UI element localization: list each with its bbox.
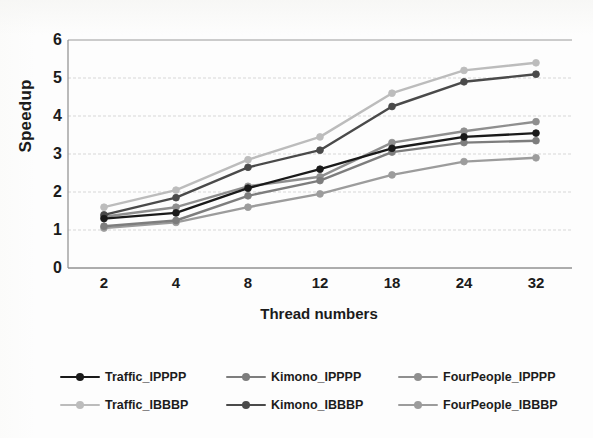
legend-swatch-icon: [398, 371, 438, 383]
series-marker: [533, 137, 540, 144]
series-marker: [173, 194, 180, 201]
gridlines: [68, 40, 572, 268]
x-tick-label: 24: [434, 274, 494, 291]
legend-label: Kimono_IPPPP: [271, 371, 361, 384]
legend-item[interactable]: Traffic_IPPPP: [60, 364, 226, 390]
series-marker: [533, 59, 540, 66]
legend-label: Traffic_IBBBP: [105, 399, 188, 412]
series-marker: [173, 217, 180, 224]
chart-plot-region: Speedup 0123456 24812182432 Thread numbe…: [0, 0, 593, 340]
legend-marker-icon: [414, 373, 422, 381]
legend-marker-icon: [242, 373, 250, 381]
legend-marker-icon: [76, 401, 84, 409]
legend-row-1: Traffic_IPPPPKimono_IPPPPFourPeople_IPPP…: [60, 364, 580, 390]
series-marker: [389, 90, 396, 97]
legend-marker-icon: [414, 401, 422, 409]
legend-item[interactable]: FourPeople_IBBBP: [398, 392, 580, 418]
series-marker: [173, 187, 180, 194]
legend-row-2: Traffic_IBBBPKimono_IBBBPFourPeople_IBBB…: [60, 392, 580, 418]
legend-swatch-icon: [226, 399, 266, 411]
legend-label: FourPeople_IPPPP: [443, 371, 556, 384]
series-traffic_ibbbp: [101, 59, 540, 210]
series-marker: [101, 204, 108, 211]
series-marker: [461, 158, 468, 165]
x-tick-label: 18: [362, 274, 422, 291]
series-marker: [245, 192, 252, 199]
series-marker: [245, 204, 252, 211]
chart-legend: Traffic_IPPPPKimono_IPPPPFourPeople_IPPP…: [0, 360, 593, 426]
series-marker: [461, 78, 468, 85]
series-marker: [317, 134, 324, 141]
series-marker: [389, 145, 396, 152]
series-marker: [389, 103, 396, 110]
series-marker: [389, 172, 396, 179]
series-marker: [533, 154, 540, 161]
x-axis-title: Thread numbers: [68, 305, 570, 322]
legend-swatch-icon: [398, 399, 438, 411]
series-marker: [533, 130, 540, 137]
legend-item[interactable]: FourPeople_IPPPP: [398, 364, 580, 390]
series-marker: [317, 177, 324, 184]
series-marker: [317, 166, 324, 173]
series-marker: [461, 67, 468, 74]
series-marker: [245, 185, 252, 192]
legend-label: Traffic_IPPPP: [105, 371, 186, 384]
series-marker: [101, 223, 108, 230]
legend-swatch-icon: [60, 371, 100, 383]
series-marker: [245, 164, 252, 171]
legend-marker-icon: [242, 401, 250, 409]
legend-item[interactable]: Kimono_IBBBP: [226, 392, 398, 418]
x-tick-label: 32: [506, 274, 566, 291]
legend-item[interactable]: Kimono_IPPPP: [226, 364, 398, 390]
series-marker: [461, 134, 468, 141]
series-marker: [533, 71, 540, 78]
legend-swatch-icon: [226, 371, 266, 383]
x-tick-label: 8: [218, 274, 278, 291]
x-tick-label: 2: [74, 274, 134, 291]
legend-item[interactable]: Traffic_IBBBP: [60, 392, 226, 418]
series-marker: [101, 215, 108, 222]
series-marker: [533, 118, 540, 125]
series-marker: [173, 210, 180, 217]
chart-figure: Speedup 0123456 24812182432 Thread numbe…: [0, 0, 593, 438]
series-marker: [317, 191, 324, 198]
x-tick-label: 4: [146, 274, 206, 291]
legend-label: FourPeople_IBBBP: [443, 399, 558, 412]
legend-marker-icon: [76, 373, 84, 381]
legend-label: Kimono_IBBBP: [271, 399, 363, 412]
series-marker: [317, 147, 324, 154]
x-tick-label: 12: [290, 274, 350, 291]
legend-swatch-icon: [60, 399, 100, 411]
series-marker: [245, 156, 252, 163]
